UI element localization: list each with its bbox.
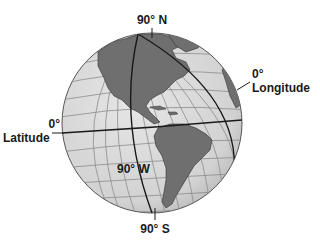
meridian-90w-label: 90° W [117, 163, 150, 176]
longitude-pointer [237, 82, 250, 90]
north-pole-label: 90° N [130, 14, 174, 27]
latitude-degree-label: 0° [10, 118, 60, 131]
latitude-name-label: Latitude [3, 132, 50, 145]
longitude-name-label: Longitude [252, 82, 310, 95]
south-pole-label: 90° S [132, 223, 178, 236]
longitude-degree-label: 0° [252, 68, 263, 81]
